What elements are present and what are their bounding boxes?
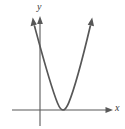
parabola-left-arrowhead [31,18,37,27]
x-axis-arrowhead [106,107,114,113]
parabola-curve [35,26,91,110]
y-axis-label: y [37,2,41,12]
parabola-right-arrowhead [88,18,94,27]
x-axis-label: x [115,103,119,113]
y-axis-arrowhead [37,16,43,24]
parabola-figure: y x [0,0,125,129]
coordinate-plane [0,0,125,129]
